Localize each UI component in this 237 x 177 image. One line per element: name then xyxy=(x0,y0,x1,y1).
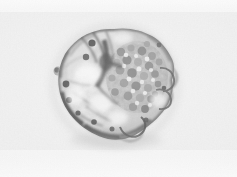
defocus-shadow xyxy=(70,131,162,149)
micrograph-image xyxy=(0,0,237,177)
micrograph-viewport xyxy=(0,0,237,177)
